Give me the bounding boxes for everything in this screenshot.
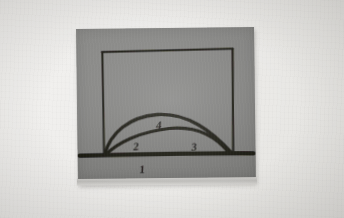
photograph-canvas: 1 2 3 4 (0, 0, 344, 218)
card-surface: 1 2 3 4 (76, 27, 256, 179)
rect-right-edge (232, 49, 234, 153)
region-label-1: 1 (139, 163, 146, 176)
gray-card: 1 2 3 4 (76, 27, 258, 186)
rect-left-edge (102, 52, 104, 154)
region-label-2: 2 (132, 140, 140, 153)
region-diagram: 1 2 3 4 (76, 27, 256, 179)
rect-top-edge (102, 49, 233, 52)
arc-large (104, 114, 232, 155)
region-label-3: 3 (190, 140, 198, 152)
region-label-4: 4 (155, 119, 163, 131)
